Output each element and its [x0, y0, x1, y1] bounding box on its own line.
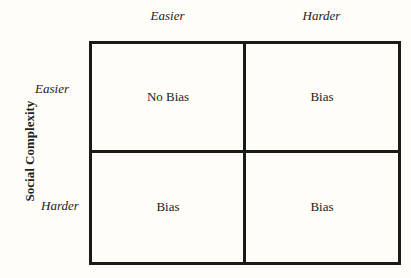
row-header-easier: Easier	[22, 81, 82, 97]
cell-easier-harder: Bias	[247, 89, 397, 105]
column-header-easier: Easier	[90, 8, 245, 24]
column-header-harder: Harder	[244, 8, 399, 24]
grid-divider-horizontal	[89, 150, 401, 153]
cell-harder-easier: Bias	[93, 199, 243, 215]
row-header-harder: Harder	[30, 198, 90, 214]
cell-harder-harder: Bias	[247, 199, 397, 215]
cell-easier-easier: No Bias	[93, 89, 243, 105]
